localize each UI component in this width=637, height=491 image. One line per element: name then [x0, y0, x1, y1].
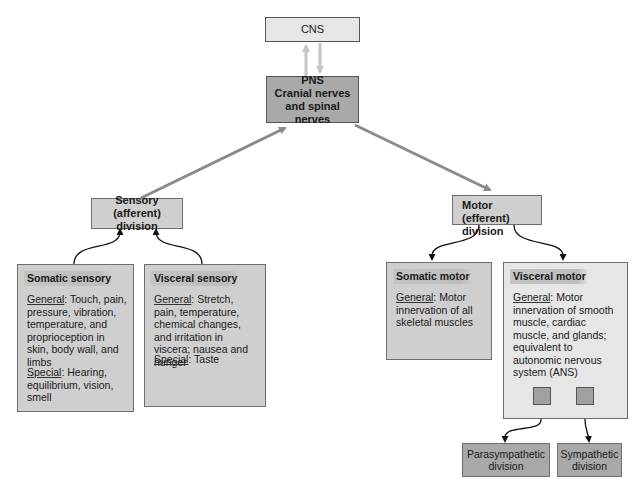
- somatic-sensory-general: General: Touch, pain, pressure, vibratio…: [27, 293, 127, 368]
- parasympathetic-division-box: Parasympathetic division: [462, 443, 550, 477]
- sympathetic-line-1: Sympathetic: [561, 448, 619, 461]
- cns-label: CNS: [301, 23, 324, 36]
- visceral-sensory-title: Visceral sensory: [151, 271, 240, 286]
- special-text: : Taste: [188, 353, 219, 365]
- somatic-sensory-special: Special: Hearing, equilibrium, vision, s…: [27, 366, 127, 404]
- visceral-sensory-special: Special: Taste: [154, 353, 259, 366]
- general-label: General: [513, 291, 550, 303]
- pns-line-3: and spinal nerves: [267, 100, 358, 126]
- sympathetic-branch-marker: [576, 387, 594, 405]
- somatic-motor-box: Somatic motor General: Motor innervation…: [386, 262, 492, 360]
- parasympathetic-branch-marker: [533, 387, 551, 405]
- general-label: General: [154, 293, 191, 305]
- parasympathetic-line-1: Parasympathetic: [467, 448, 545, 461]
- special-label: Special: [27, 366, 61, 378]
- motor-division-line-2: division: [462, 225, 541, 238]
- sympathetic-division-box: Sympathetic division: [557, 443, 622, 477]
- visceral-motor-general: General: Motor innervation of smooth mus…: [513, 291, 621, 379]
- sympathetic-line-2: division: [572, 460, 607, 473]
- parasympathetic-line-2: division: [488, 460, 523, 473]
- sensory-division-line-2: division: [116, 220, 158, 233]
- somatic-motor-title: Somatic motor: [393, 269, 473, 284]
- pns-line-2: Cranial nerves: [275, 87, 351, 100]
- sensory-division-line-1: Sensory (afferent): [92, 194, 182, 220]
- general-label: General: [396, 291, 433, 303]
- visceral-motor-box: Visceral motor General: Motor innervatio…: [503, 262, 628, 419]
- visceral-motor-title: Visceral motor: [510, 269, 589, 284]
- sensory-division-box: Sensory (afferent) division: [91, 198, 183, 229]
- general-label: General: [27, 293, 64, 305]
- general-text: : Motor innervation of smooth muscle, ca…: [513, 291, 613, 378]
- somatic-motor-general: General: Motor innervation of all skelet…: [396, 291, 485, 329]
- visceral-sensory-box: Visceral sensory General: Stretch, pain,…: [144, 264, 266, 407]
- somatic-sensory-title: Somatic sensory: [24, 271, 114, 286]
- pns-title: PNS: [301, 74, 324, 87]
- motor-division-box: Motor (efferent) division: [452, 195, 542, 225]
- pns-box: PNS Cranial nerves and spinal nerves: [266, 76, 359, 123]
- motor-division-line-1: Motor (efferent): [462, 199, 541, 225]
- cns-box: CNS: [265, 17, 360, 42]
- special-label: Special: [154, 353, 188, 365]
- somatic-sensory-box: Somatic sensory General: Touch, pain, pr…: [17, 264, 134, 412]
